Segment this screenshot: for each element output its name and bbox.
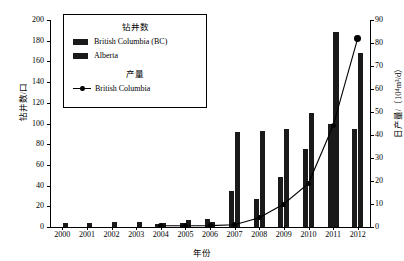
x-tick-mark: [62, 227, 63, 230]
y-tick-mark-right: [371, 158, 374, 159]
legend-heading-wells: 钻井数: [64, 20, 206, 32]
chart-container: 钻井数/口 日产量/（10⁴m³/d） 年份 02040608010012014…: [0, 0, 404, 261]
x-tick-label: 2012: [341, 231, 375, 239]
y-tick-mark-right: [371, 181, 374, 182]
y-tick-left: 100: [14, 120, 44, 128]
legend: 钻井数 British Columbia (BC) Alberta 产量 Bri…: [63, 14, 207, 108]
y-tick-mark-right: [371, 43, 374, 44]
y-tick-mark-left: [47, 165, 50, 166]
bar-alberta-2010: [309, 113, 314, 227]
legend-heading-production: 产量: [64, 67, 206, 79]
y-tick-right: 10: [375, 200, 404, 208]
bar-british-columbia-bc--2011: [328, 124, 333, 228]
y-tick-right: 70: [375, 62, 404, 70]
y-tick-mark-left: [47, 144, 50, 145]
x-tick-mark: [333, 227, 334, 230]
y-tick-left: 200: [14, 16, 44, 24]
x-tick-mark: [235, 227, 236, 230]
line-point-2009: [281, 202, 286, 207]
y-tick-right: 40: [375, 131, 404, 139]
legend-item-bc-production: British Columbia: [73, 84, 206, 93]
y-tick-left: 80: [14, 140, 44, 148]
bar-alberta-2001: [87, 223, 92, 227]
x-tick-mark: [309, 227, 310, 230]
legend-swatch-alberta-wells: [73, 53, 88, 59]
y-tick-mark-right: [371, 112, 374, 113]
y-tick-left: 120: [14, 99, 44, 107]
bar-british-columbia-bc--2010: [303, 149, 308, 227]
y-tick-mark-right: [371, 204, 374, 205]
y-tick-mark-right: [371, 227, 374, 228]
bar-alberta-2003: [137, 222, 142, 227]
bar-alberta-2002: [112, 222, 117, 227]
y-tick-mark-left: [47, 227, 50, 228]
y-tick-mark-left: [47, 41, 50, 42]
y-tick-mark-left: [47, 186, 50, 187]
y-tick-right: 0: [375, 223, 404, 231]
legend-label-alberta-wells: Alberta: [94, 51, 118, 60]
x-tick-mark: [112, 227, 113, 230]
y-tick-right: 50: [375, 108, 404, 116]
legend-label-bc-wells: British Columbia (BC): [94, 37, 167, 46]
y-axis-right-label: 日产量/（10⁴m³/d）: [391, 36, 403, 166]
y-tick-mark-right: [371, 66, 374, 67]
y-axis-right-line: [370, 20, 371, 228]
bar-alberta-2008: [260, 131, 265, 227]
y-tick-mark-right: [371, 135, 374, 136]
y-axis-left-line: [50, 20, 51, 228]
line-point-2010: [306, 181, 311, 186]
bar-alberta-2000: [63, 223, 68, 227]
y-tick-mark-left: [47, 61, 50, 62]
y-tick-left: 180: [14, 37, 44, 45]
line-point-2011: [331, 123, 336, 128]
y-tick-mark-left: [47, 103, 50, 104]
y-tick-right: 90: [375, 16, 404, 24]
line-point-2006: [208, 223, 213, 228]
legend-label-bc-production: British Columbia: [95, 84, 150, 93]
y-tick-right: 80: [375, 39, 404, 47]
bar-british-columbia-bc--2012: [352, 129, 357, 227]
x-tick-mark: [358, 227, 359, 230]
y-tick-mark-right: [371, 89, 374, 90]
legend-item-alberta-wells: Alberta: [73, 51, 206, 60]
y-tick-left: 0: [14, 223, 44, 231]
y-tick-mark-left: [47, 20, 50, 21]
bar-alberta-2011: [333, 32, 338, 227]
y-tick-left: 160: [14, 57, 44, 65]
legend-item-bc-wells: British Columbia (BC): [73, 37, 206, 46]
legend-swatch-bc-wells: [73, 39, 88, 45]
x-tick-mark: [87, 227, 88, 230]
y-tick-right: 60: [375, 85, 404, 93]
bar-alberta-2012: [358, 53, 363, 227]
bar-alberta-2007: [235, 132, 240, 227]
bar-british-columbia-bc--2008: [254, 199, 259, 227]
x-tick-mark: [259, 227, 260, 230]
y-tick-left: 140: [14, 78, 44, 86]
x-axis-label: 年份: [0, 246, 404, 258]
y-tick-left: 60: [14, 161, 44, 169]
y-tick-right: 20: [375, 177, 404, 185]
y-tick-mark-left: [47, 206, 50, 207]
legend-swatch-bc-production: [73, 85, 91, 92]
y-tick-mark-left: [47, 82, 50, 83]
y-tick-mark-right: [371, 20, 374, 21]
y-tick-left: 40: [14, 182, 44, 190]
y-tick-right: 30: [375, 154, 404, 162]
bar-alberta-2009: [284, 129, 289, 227]
y-tick-left: 20: [14, 202, 44, 210]
y-tick-mark-left: [47, 124, 50, 125]
x-tick-mark: [136, 227, 137, 230]
x-tick-mark: [284, 227, 285, 230]
line-point-2012: [354, 35, 361, 42]
